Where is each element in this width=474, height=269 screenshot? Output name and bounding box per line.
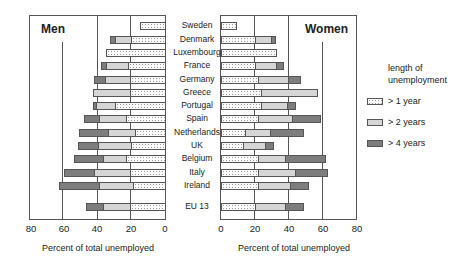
women-bar-over-1-year-segment	[221, 155, 259, 163]
women-bar-over-1-year-segment	[221, 169, 259, 177]
men-bar-over-1-year-segment	[130, 203, 166, 211]
women-bar-over-4-years-segment	[295, 169, 328, 177]
women-bar-over-4-years-segment	[292, 115, 322, 123]
men-bar-over-4-years-segment	[110, 36, 116, 44]
women-bar-over-2-years-segment	[255, 62, 278, 70]
women-tick-0: 0	[209, 223, 233, 234]
women-bar-over-1-year-segment	[221, 22, 237, 30]
women-bar-over-4-years-segment	[285, 203, 304, 211]
men-bar-over-4-years-segment	[64, 169, 95, 177]
women-bar-over-4-years-segment	[276, 62, 284, 70]
men-bar-over-1-year-segment	[126, 155, 166, 163]
women-bar-over-2-years-segment	[243, 142, 266, 150]
women-bar-over-2-years-segment	[258, 76, 289, 84]
men-bar-over-2-years-segment	[96, 102, 115, 110]
women-bar-over-1-year-segment	[221, 102, 262, 110]
men-bar-over-4-years-segment	[94, 76, 105, 84]
men-tick-0: 0	[153, 223, 177, 234]
men-bar-over-1-year-segment	[135, 129, 166, 137]
men-bar-over-4-years-segment	[79, 129, 109, 137]
men-tick-20: 20	[119, 223, 143, 234]
women-tick-40: 40	[277, 223, 301, 234]
women-bar-over-4-years-segment	[288, 76, 301, 84]
men-bar-over-4-years-segment	[86, 203, 104, 211]
women-bar-over-1-year-segment	[221, 76, 259, 84]
men-x-axis-label: Percent of total unemployed	[42, 243, 154, 253]
men-tick-40: 40	[85, 223, 109, 234]
women-tick-80: 80	[345, 223, 369, 234]
women-tick-60: 60	[311, 223, 335, 234]
women-title-line	[322, 42, 323, 220]
women-bar-over-1-year-segment	[221, 142, 244, 150]
women-title: Women	[305, 22, 348, 36]
women-bar-over-4-years-segment	[287, 102, 296, 110]
men-bar-over-4-years-segment	[101, 62, 107, 70]
men-title-line	[62, 42, 63, 220]
women-bar-over-1-year-segment	[221, 36, 256, 44]
women-bar-over-1-year-segment	[221, 89, 262, 97]
women-bar-over-2-years-segment	[261, 89, 317, 97]
women-bar-over-1-year-segment	[221, 115, 259, 123]
legend-title: length of unemployment	[388, 62, 447, 86]
men-bar-over-1-year-segment	[128, 62, 166, 70]
women-bar-over-2-years-segment	[258, 169, 296, 177]
men-bar-over-2-years-segment	[103, 155, 128, 163]
men-bar-over-2-years-segment	[106, 62, 129, 70]
men-bar-over-2-years-segment	[99, 182, 134, 190]
men-bar-over-2-years-segment	[103, 203, 131, 211]
men-bar-over-4-years-segment	[84, 115, 100, 123]
men-bar-over-2-years-segment	[98, 142, 133, 150]
women-bar-over-1-year-segment	[221, 62, 256, 70]
women-bar-over-2-years-segment	[245, 129, 271, 137]
women-bar-over-4-years-segment	[271, 36, 275, 44]
women-bar-over-2-years-segment	[255, 36, 273, 44]
men-bar-over-1-year-segment	[126, 115, 166, 123]
legend-label: > 4 years	[388, 138, 425, 148]
women-bar-over-2-years-segment	[255, 203, 286, 211]
men-bar-over-1-year-segment	[106, 49, 166, 57]
men-tick-60: 60	[52, 223, 76, 234]
legend-label: > 1 year	[388, 96, 421, 106]
men-bar-over-1-year-segment	[131, 36, 166, 44]
men-bar-over-1-year-segment	[140, 22, 166, 30]
pattern-swatch-icon	[367, 98, 383, 105]
pattern-swatch-icon	[367, 140, 383, 147]
women-bar-over-4-years-segment	[265, 142, 274, 150]
women-tick-20: 20	[243, 223, 267, 234]
legend-label: > 2 years	[388, 117, 425, 127]
legend-title-line2: unemployment	[388, 74, 447, 86]
women-bar-over-2-years-segment	[258, 115, 293, 123]
men-title: Men	[41, 22, 65, 36]
men-bar-over-1-year-segment	[133, 182, 166, 190]
men-bar-over-2-years-segment	[93, 89, 131, 97]
women-bar-over-2-years-segment	[258, 182, 291, 190]
men-bar-over-2-years-segment	[105, 76, 131, 84]
women-x-axis-label: Percent of total unemployed	[238, 243, 350, 253]
men-bar-over-1-year-segment	[130, 169, 166, 177]
men-bar-over-2-years-segment	[94, 169, 130, 177]
legend-item-4-years: > 4 years	[367, 138, 425, 148]
women-bar-over-4-years-segment	[270, 129, 305, 137]
men-bar-over-2-years-segment	[99, 115, 127, 123]
men-bar-over-2-years-segment	[115, 36, 133, 44]
men-bar-over-1-year-segment	[130, 76, 166, 84]
women-bar-over-4-years-segment	[290, 182, 309, 190]
men-bar-over-4-years-segment	[59, 182, 100, 190]
women-bar-over-1-year-segment	[221, 182, 259, 190]
women-bar-over-1-year-segment	[221, 49, 277, 57]
women-bar-over-2-years-segment	[261, 102, 287, 110]
men-bar-over-4-years-segment	[93, 102, 97, 110]
women-bar-over-1-year-segment	[221, 129, 246, 137]
men-bar-over-4-years-segment	[78, 142, 99, 150]
legend-item-2-years: > 2 years	[367, 117, 425, 127]
men-bar-over-1-year-segment	[115, 102, 166, 110]
women-bar-over-2-years-segment	[258, 155, 286, 163]
pattern-swatch-icon	[367, 119, 383, 126]
women-bar-over-1-year-segment	[221, 203, 256, 211]
men-bar-over-1-year-segment	[131, 142, 166, 150]
men-bar-over-4-years-segment	[74, 155, 104, 163]
legend-title-line1: length of	[388, 62, 447, 74]
men-bar-over-1-year-segment	[130, 89, 166, 97]
legend-item-1-year: > 1 year	[367, 96, 421, 106]
men-bar-over-2-years-segment	[108, 129, 136, 137]
